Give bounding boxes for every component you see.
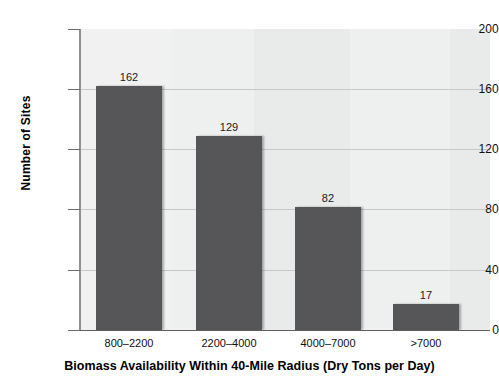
x-tick-label: 2200–4000 (184, 337, 274, 349)
bar-over-7000 (393, 304, 459, 330)
y-tick-mark-40 (68, 270, 80, 271)
y-tick-mark-80 (68, 209, 80, 210)
bar-4000-7000 (295, 207, 361, 330)
x-tick-label: 800–2200 (84, 337, 174, 349)
y-tick-mark-120 (68, 149, 80, 150)
bar-value-label: 129 (196, 121, 262, 133)
x-tick-label: >7000 (381, 337, 471, 349)
y-tick-label: 0 (457, 323, 499, 337)
x-tick-label: 4000–7000 (283, 337, 373, 349)
y-tick-mark-0 (68, 330, 80, 331)
bar-2200-4000 (196, 136, 262, 330)
bar-value-label: 162 (96, 71, 162, 83)
bar-value-label: 82 (295, 192, 361, 204)
y-axis-line (79, 29, 81, 331)
y-tick-mark-200 (68, 29, 80, 30)
y-tick-label: 160 (457, 82, 499, 96)
background-band-5 (450, 29, 490, 330)
x-axis-line (79, 330, 490, 331)
x-axis-title: Biomass Availability Within 40-Mile Radi… (0, 359, 499, 373)
y-axis-title: Number of Sites (19, 73, 33, 213)
bar-chart-figure: 162 129 82 17 200 160 120 80 40 0 800–22… (0, 0, 499, 381)
y-tick-label: 40 (457, 263, 499, 277)
background-band-4 (350, 29, 450, 330)
y-tick-label: 200 (457, 22, 499, 36)
bar-800-2200 (96, 86, 162, 330)
y-tick-mark-160 (68, 89, 80, 90)
y-tick-label: 120 (457, 142, 499, 156)
y-tick-label: 80 (457, 202, 499, 216)
bar-value-label: 17 (393, 289, 459, 301)
